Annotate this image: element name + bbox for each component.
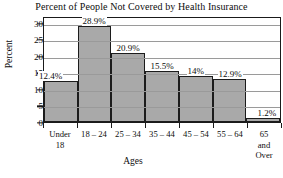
x-axis-tick-mark [111, 123, 112, 128]
bar-value-label: 28.9% [82, 16, 107, 26]
x-axis-tick-mark [43, 123, 44, 128]
x-axis-tick-mark [145, 123, 146, 128]
bar-value-label: 12.9% [218, 69, 243, 79]
y-axis-tick-mark [37, 106, 43, 107]
chart-title: Percent of People Not Covered by Health … [0, 1, 283, 12]
gridline [44, 107, 280, 108]
bar [145, 71, 179, 122]
y-axis-title: Percent [4, 24, 14, 84]
bar [44, 81, 78, 122]
bar [179, 76, 213, 122]
gridline [44, 58, 280, 59]
bar-chart: Percent of People Not Covered by Health … [0, 0, 283, 178]
x-axis-tick-label: 65andOver [247, 129, 281, 161]
bar-cell [111, 18, 145, 122]
y-axis-tick-mark [37, 56, 43, 57]
x-axis-title: Ages [43, 156, 223, 166]
bar-value-label: 15.5% [150, 61, 175, 71]
gridline [44, 25, 280, 26]
x-axis-tick-mark [77, 123, 78, 128]
gridline [44, 74, 280, 75]
x-axis-tick-mark [247, 123, 248, 128]
gridline [44, 91, 280, 92]
bar-cell [78, 18, 112, 122]
bar-cell [246, 18, 280, 122]
gridline [44, 41, 280, 42]
x-axis-tick-mark [281, 123, 282, 128]
bar-value-label: 14% [187, 66, 206, 76]
y-axis-tick-mark [37, 89, 43, 90]
bar [111, 53, 145, 122]
bar-value-label: 1.2% [257, 108, 278, 118]
bar-value-label: 20.9% [116, 43, 141, 53]
x-axis-tick-mark [213, 123, 214, 128]
y-axis-tick-mark [37, 40, 43, 41]
bar [246, 118, 280, 122]
bar-value-label: 12.4% [38, 71, 63, 81]
y-axis-tick-mark [37, 23, 43, 24]
bar [213, 79, 247, 122]
x-axis-tick-mark [179, 123, 180, 128]
